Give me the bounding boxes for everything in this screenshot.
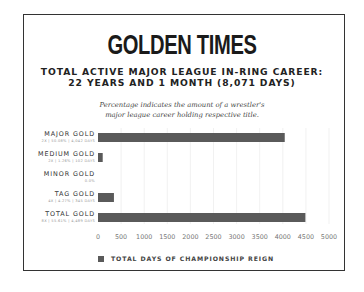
bar (98, 133, 285, 142)
bar-chart: 0500100015002000250030003500400045005000… (0, 0, 364, 292)
bar (98, 213, 305, 222)
category-label: MEDIUM GOLD (38, 150, 95, 158)
x-tick-label: 3500 (252, 233, 268, 241)
category-label: TAG GOLD (54, 190, 95, 198)
legend-label: TOTAL DAYS OF CHAMPIONSHIP REIGN (111, 255, 274, 262)
category-label: TOTAL GOLD (44, 210, 95, 218)
x-tick-label: 2000 (182, 233, 198, 241)
category-detail: 0.0% (85, 179, 96, 183)
x-tick-label: 4000 (275, 233, 291, 241)
x-tick-label: 4500 (298, 233, 314, 241)
x-tick-label: 1000 (136, 233, 152, 241)
category-label: MAJOR GOLD (44, 130, 95, 138)
category-label: MINOR GOLD (44, 170, 95, 178)
category-detail: 2X | 50.08% | 4,042 DAYS (42, 139, 96, 143)
x-tick-label: 3000 (228, 233, 244, 241)
x-tick-label: 0 (96, 233, 100, 241)
category-detail: 8X | 55.61% | 4,489 DAYS (42, 219, 96, 223)
x-tick-label: 5000 (321, 233, 337, 241)
category-detail: 4X | 4.27% | 345 DAYS (48, 199, 95, 203)
bar (98, 193, 114, 202)
x-tick-label: 1500 (159, 233, 175, 241)
legend-swatch (98, 256, 104, 262)
category-detail: 2X | 1.26% | 102 DAYS (48, 159, 95, 163)
x-tick-label: 500 (115, 233, 127, 241)
x-tick-label: 2500 (205, 233, 221, 241)
chart-legend: TOTAL DAYS OF CHAMPIONSHIP REIGN (98, 255, 274, 262)
bar (98, 153, 103, 162)
